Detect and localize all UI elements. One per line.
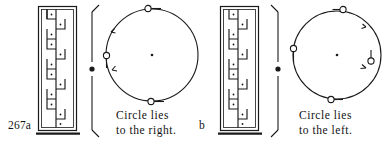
caption-panel-a-line1: Circle lies <box>116 108 177 123</box>
caption-panel-b-line2: to the left. <box>299 123 353 138</box>
panel-a-marker-top <box>145 5 161 11</box>
figure-label-267a: 267a <box>8 119 31 131</box>
panel-a-marker-bottom <box>148 98 164 104</box>
panel-a-marker-left <box>103 52 109 68</box>
panel-a-frame <box>36 7 80 134</box>
caption-panel-b-line1: Circle lies <box>299 108 353 123</box>
panel-b-arrowheads <box>361 24 367 69</box>
panel-b-axis <box>271 5 281 137</box>
panel-b-marker-bottom <box>328 96 343 102</box>
panel-b-circle-center-dot <box>336 54 339 57</box>
panel-b-circle-diagram <box>290 6 381 102</box>
panel-a-circle-diagram <box>103 5 198 104</box>
panel-b-marker-left <box>290 45 296 62</box>
panel-b-marker-right <box>368 50 374 64</box>
caption-panel-a: Circle lies to the right. <box>116 108 177 138</box>
figure-label-b: b <box>199 119 205 131</box>
caption-panel-b: Circle lies to the left. <box>299 108 353 138</box>
figure-illustration: 267a b Circle lies to the right. Circle … <box>0 0 385 150</box>
panel-b-frame <box>218 7 262 134</box>
panel-b-marker-top <box>333 6 347 12</box>
panel-a-arrowheads <box>111 29 117 72</box>
panel-a-circle-center-dot <box>151 54 154 57</box>
caption-panel-a-line2: to the right. <box>116 123 177 138</box>
panel-a-axis <box>89 5 99 137</box>
